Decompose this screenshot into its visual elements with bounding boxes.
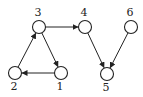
- edge-2-to-3: [18, 33, 36, 67]
- directed-graph: 123456: [0, 0, 143, 97]
- node-label: 5: [103, 81, 110, 94]
- node-circle: [101, 68, 114, 81]
- node-circle: [55, 67, 68, 80]
- node-label: 1: [57, 80, 64, 93]
- node-2: 2: [9, 67, 22, 94]
- edge-3-to-1: [42, 33, 58, 67]
- node-label: 6: [127, 6, 134, 19]
- node-5: 5: [101, 68, 114, 95]
- node-1: 1: [55, 67, 68, 94]
- node-circle: [79, 21, 92, 34]
- node-label: 3: [35, 6, 42, 19]
- node-4: 4: [79, 6, 92, 34]
- nodes: 123456: [9, 6, 138, 94]
- edge-4-to-5: [88, 33, 104, 68]
- node-label: 4: [81, 6, 88, 19]
- edge-6-to-5: [110, 33, 128, 68]
- edges: [18, 27, 128, 73]
- node-circle: [33, 21, 46, 34]
- node-6: 6: [125, 6, 138, 34]
- node-3: 3: [33, 6, 46, 34]
- node-circle: [9, 67, 22, 80]
- node-circle: [125, 21, 138, 34]
- node-label: 2: [11, 80, 18, 93]
